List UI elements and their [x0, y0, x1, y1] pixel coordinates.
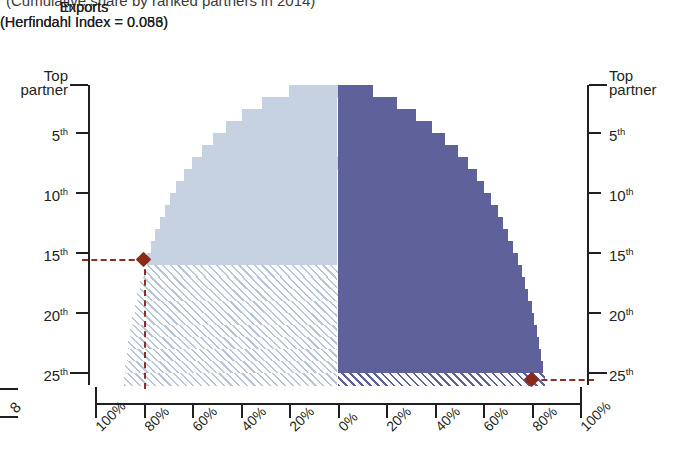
y-axis-left-spine: [88, 85, 90, 385]
y-tick-right-25: [589, 372, 607, 374]
y-axis-label-left-5: 5th: [52, 124, 68, 143]
y-tick-right-5: [589, 132, 601, 134]
x-tick-6: [386, 403, 388, 418]
x-tick-3: [241, 403, 243, 418]
y-tick-left-25: [70, 372, 88, 374]
y-axis-right-spine: [587, 85, 589, 385]
y-tick-right-1: [589, 84, 607, 86]
y-tick-left-10: [76, 192, 88, 194]
y-axis-label-left-20: 20th: [43, 304, 68, 323]
y-axis-label-right-10: 10th: [609, 184, 634, 203]
y-axis-label-left-1: Toppartner: [20, 69, 68, 97]
y-axis-label-right-1: Toppartner: [609, 69, 657, 97]
x-tick-8: [483, 403, 485, 418]
y-tick-right-20: [589, 312, 601, 314]
y-tick-right-10: [589, 192, 601, 194]
y-axis-label-left-25: 25th: [43, 364, 68, 383]
x-tick-1: [144, 403, 146, 418]
axes-layer: ToppartnerToppartner5th5th10th10th15th15…: [0, 0, 679, 458]
y-tick-left-15: [76, 252, 88, 254]
y-axis-label-left-10: 10th: [43, 184, 68, 203]
y-axis-label-right-25: 25th: [609, 364, 634, 383]
y-axis-label-right-15: 15th: [609, 244, 634, 263]
y-axis-label-right-20: 20th: [609, 304, 634, 323]
figure-root: (Cumulative share by ranked partners in …: [0, 0, 679, 458]
x-tick-5: [338, 403, 340, 418]
y-tick-left-1: [70, 84, 88, 86]
y-tick-right-15: [589, 252, 601, 254]
y-tick-left-20: [76, 312, 88, 314]
x-tick-end-10: [580, 387, 582, 404]
y-axis-label-right-5: 5th: [609, 124, 625, 143]
x-tick-9: [532, 403, 534, 418]
x-tick-2: [192, 403, 194, 418]
x-tick-4: [289, 403, 291, 418]
x-tick-10: [580, 403, 582, 418]
y-tick-left-5: [76, 132, 88, 134]
x-tick-end-0: [95, 387, 97, 404]
x-tick-0: [95, 403, 97, 418]
y-axis-label-left-15: 15th: [43, 244, 68, 263]
x-axis-label-10: 100%: [577, 398, 614, 435]
x-tick-7: [435, 403, 437, 418]
